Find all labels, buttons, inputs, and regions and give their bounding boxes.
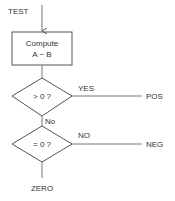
decision2-text: = 0 ? — [33, 140, 52, 149]
decision1-yes-target: POS — [146, 92, 163, 101]
process-text-line1: Compute — [26, 39, 59, 48]
decision1-text: > 0 ? — [33, 92, 52, 101]
process-box — [12, 32, 72, 65]
decision2-no-label: NO — [78, 131, 90, 140]
decision2-yes-target: ZERO — [31, 184, 53, 193]
entry-label: TEST — [8, 7, 29, 16]
decision2-no-target: NEG — [146, 140, 163, 149]
decision1-no-label: No — [45, 117, 56, 126]
decision1-yes-label: YES — [78, 84, 94, 93]
process-text-line2: A − B — [32, 50, 51, 59]
flowchart: TEST Compute A − B > 0 ? YES POS No = 0 … — [0, 0, 175, 201]
